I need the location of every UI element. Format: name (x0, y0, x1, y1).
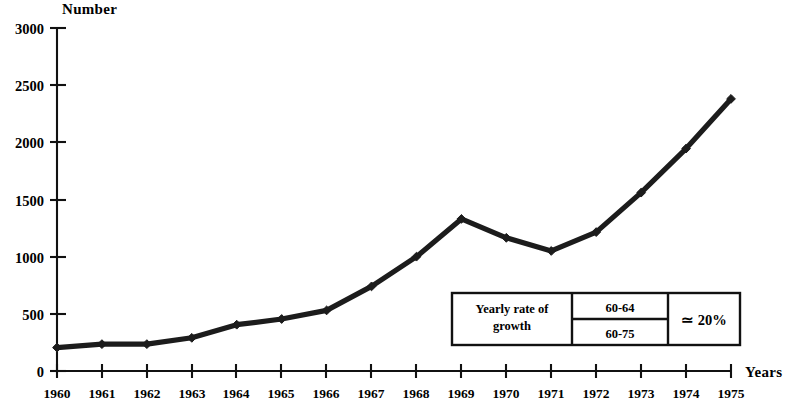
x-tick-label: 1972 (583, 386, 610, 401)
y-tick-label: 1000 (15, 250, 44, 266)
annotation-period-2: 60-75 (605, 327, 634, 341)
x-axis-tick-labels: 1960 1961 1962 1963 1964 1965 1966 1967 … (44, 386, 745, 401)
data-point (53, 343, 62, 352)
y-tick-label: 3000 (15, 21, 44, 37)
x-tick-label: 1971 (538, 386, 565, 401)
annotation-label-line1: Yearly rate of (476, 302, 550, 316)
y-tick-label: 2500 (15, 78, 44, 94)
y-tick-label: 1500 (15, 193, 44, 209)
annotation-label-line2: growth (493, 319, 531, 333)
x-tick-label: 1964 (223, 386, 250, 401)
y-axis-tick-labels: 3000 2500 2000 1500 1000 500 0 (15, 21, 44, 380)
x-tick-label: 1963 (179, 386, 206, 401)
x-tick-label: 1965 (268, 386, 295, 401)
x-axis-title: Years (745, 364, 782, 380)
x-tick-label: 1968 (403, 386, 430, 401)
annotation-growth-value: ≃ 20% (681, 312, 727, 328)
line-chart: Number 3000 2500 2000 1500 1000 500 0 (0, 0, 790, 408)
x-tick-label: 1969 (448, 386, 475, 401)
x-tick-label: 1970 (493, 386, 520, 401)
data-point (98, 340, 107, 349)
x-tick-label: 1966 (313, 386, 340, 401)
x-tick-label: 1973 (628, 386, 655, 401)
x-tick-label: 1961 (89, 386, 116, 401)
x-tick-label: 1962 (134, 386, 161, 401)
x-tick-label: 1967 (358, 386, 385, 401)
y-axis-title: Number (62, 1, 117, 17)
x-tick-label: 1975 (718, 386, 745, 401)
chart-container: Number 3000 2500 2000 1500 1000 500 0 (0, 0, 790, 408)
y-tick-label: 500 (22, 307, 44, 323)
y-tick-label: 2000 (15, 135, 44, 151)
x-tick-label: 1960 (44, 386, 71, 401)
y-tick-label: 0 (37, 364, 44, 380)
annotation-table: Yearly rate of growth 60-64 60-75 ≃ 20% (452, 293, 740, 345)
annotation-period-1: 60-64 (605, 301, 635, 315)
x-tick-label: 1974 (673, 386, 700, 401)
